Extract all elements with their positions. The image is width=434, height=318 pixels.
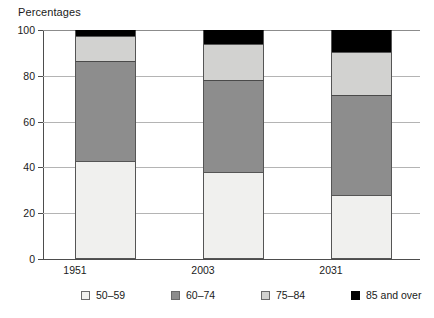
bar-2003-segment-50-59 — [203, 172, 264, 259]
bar-2031 — [331, 30, 392, 259]
bar-2031-segment-60-74 — [331, 95, 392, 195]
x-tick-label-2031: 2031 — [286, 264, 376, 276]
stacked-bar-chart: Percentages 100 80 60 40 20 0 — [0, 0, 434, 318]
bar-2003-segment-60-74 — [203, 80, 264, 172]
bar-1951-segment-85-and-over — [75, 30, 136, 36]
bar-2031-segment-50-59 — [331, 195, 392, 259]
x-axis-line — [43, 259, 420, 260]
x-tick-label-2003: 2003 — [158, 264, 248, 276]
y-tick-label-80: 80 — [23, 71, 35, 82]
legend-swatch-50-59-icon — [81, 291, 90, 300]
legend-item-50-59: 50–59 — [81, 288, 125, 302]
bar-1951 — [75, 30, 136, 259]
legend-swatch-85-and-over-icon — [351, 291, 360, 300]
legend-label-85-and-over: 85 and over — [366, 289, 421, 301]
legend-swatch-60-74-icon — [171, 291, 180, 300]
bar-1951-segment-60-74 — [75, 61, 136, 161]
legend-item-75-84: 75–84 — [261, 288, 305, 302]
chart-legend: 50–59 60–74 75–84 85 and over — [43, 288, 420, 304]
bar-2003-segment-75-84 — [203, 44, 264, 81]
legend-item-85-and-over: 85 and over — [351, 288, 421, 302]
y-tick-label-20: 20 — [23, 208, 35, 219]
plot-area — [43, 30, 420, 259]
legend-label-60-74: 60–74 — [186, 289, 215, 301]
bar-1951-segment-50-59 — [75, 161, 136, 259]
y-tick-label-40: 40 — [23, 162, 35, 173]
bar-2003-segment-85-and-over — [203, 30, 264, 44]
bar-1951-segment-75-84 — [75, 36, 136, 61]
y-tick-label-60: 60 — [23, 117, 35, 128]
legend-label-50-59: 50–59 — [96, 289, 125, 301]
legend-item-60-74: 60–74 — [171, 288, 215, 302]
bar-2031-segment-85-and-over — [331, 30, 392, 52]
y-tick-label-100: 100 — [17, 25, 35, 36]
bar-2031-segment-75-84 — [331, 52, 392, 96]
legend-swatch-75-84-icon — [261, 291, 270, 300]
bar-2003 — [203, 30, 264, 259]
chart-title: Percentages — [18, 6, 81, 19]
legend-label-75-84: 75–84 — [276, 289, 305, 301]
x-tick-label-1951: 1951 — [30, 264, 120, 276]
